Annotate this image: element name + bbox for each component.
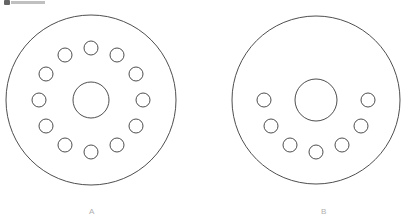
technical-drawing-canvas xyxy=(0,0,413,223)
part-b-bolt-hole-2 xyxy=(354,119,368,133)
part-b-bolt-hole-5 xyxy=(283,138,297,152)
part-a-bolt-hole-10 xyxy=(32,93,46,107)
part-a-bolt-hole-6 xyxy=(110,138,124,152)
part-b-bolt-hole-7 xyxy=(257,93,271,107)
part-a-diagram xyxy=(6,15,176,185)
part-a-bolt-hole-4 xyxy=(136,93,150,107)
part-a-bolt-hole-11 xyxy=(39,67,53,81)
figure-container: A B xyxy=(0,0,413,223)
part-b-diagram xyxy=(232,16,400,184)
part-b-bolt-hole-4 xyxy=(309,145,323,159)
part-a-center-hub xyxy=(73,82,109,118)
part-a-bolt-hole-12 xyxy=(58,48,72,62)
part-b-label: B xyxy=(321,208,327,216)
part-b-bolt-hole-6 xyxy=(264,119,278,133)
part-b-bolt-hole-3 xyxy=(335,138,349,152)
part-a-bolt-hole-1 xyxy=(84,41,98,55)
part-a-bolt-hole-5 xyxy=(129,119,143,133)
part-a-bolt-hole-2 xyxy=(110,48,124,62)
part-a-outer-rim xyxy=(6,15,176,185)
part-a-label: A xyxy=(89,208,95,216)
part-b-bolt-hole-1 xyxy=(361,93,375,107)
part-a-bolt-hole-3 xyxy=(129,67,143,81)
part-a-bolt-hole-7 xyxy=(84,145,98,159)
part-a-bolt-hole-9 xyxy=(39,119,53,133)
part-a-bolt-hole-8 xyxy=(58,138,72,152)
part-b-center-hub xyxy=(295,79,337,121)
